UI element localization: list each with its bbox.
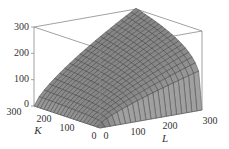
k-axis-label: K: [33, 124, 42, 136]
z-tick-300: 300: [14, 21, 29, 32]
z-tick-200: 200: [14, 47, 29, 58]
l-axis-label: L: [161, 132, 168, 144]
k-tick-100: 100: [60, 122, 75, 133]
surface-plot: 0 100 200 300 300 200 100 0 K 0 100 200 …: [0, 0, 229, 149]
z-tick-0: 0: [24, 98, 29, 109]
l-tick-0: 0: [104, 130, 109, 141]
l-tick-200: 200: [163, 120, 178, 131]
l-tick-100: 100: [131, 126, 146, 137]
z-tick-100: 100: [14, 73, 29, 84]
production-surface: [34, 8, 202, 128]
z-axis: 0 100 200 300: [14, 21, 29, 109]
k-tick-200: 200: [37, 113, 52, 124]
k-tick-300: 300: [7, 106, 22, 117]
l-tick-300: 300: [203, 115, 218, 126]
k-tick-0: 0: [92, 130, 97, 141]
